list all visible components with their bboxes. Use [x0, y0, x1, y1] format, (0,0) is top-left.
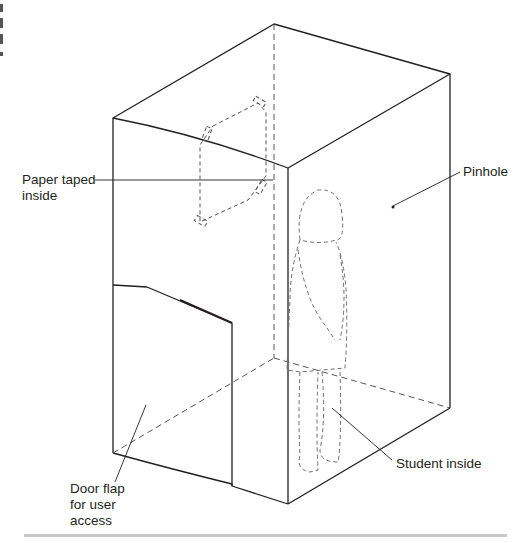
door-bottom-edge	[113, 453, 288, 504]
pinhole-icon	[392, 206, 395, 209]
label-student-inside: Student inside	[396, 456, 482, 472]
hidden-back-bottom-left	[113, 358, 274, 453]
student-silhouette	[287, 190, 347, 472]
bottom-rule	[24, 534, 507, 537]
hidden-back-bottom-right	[274, 358, 450, 408]
leader-door	[115, 405, 146, 482]
label-door-flap: Door flap for user access	[70, 481, 125, 529]
label-pinhole: Pinhole	[463, 164, 508, 180]
leader-student	[332, 408, 392, 460]
label-paper-taped: Paper taped inside	[22, 172, 96, 204]
box-top-face	[113, 24, 450, 168]
taped-paper	[194, 96, 267, 226]
